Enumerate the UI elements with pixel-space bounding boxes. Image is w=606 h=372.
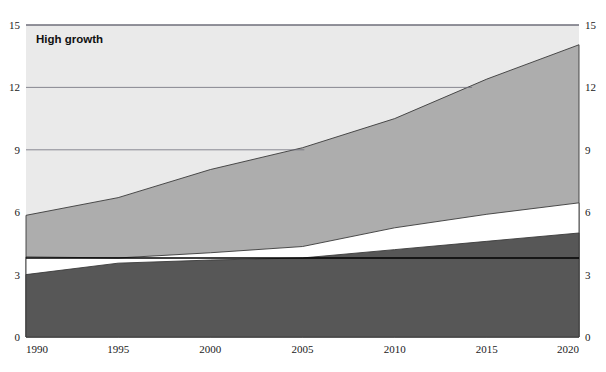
y-tick-right-6: 6 [585, 206, 591, 218]
y-tick-right-15: 15 [585, 19, 597, 31]
x-tick-2000: 2000 [199, 343, 222, 355]
chart-title: High growth [36, 33, 103, 45]
y-tick-right-12: 12 [585, 81, 596, 93]
chart-container: 03691215 03691215 1990199520002005201020… [0, 0, 606, 372]
stacked-area-chart: 03691215 03691215 1990199520002005201020… [0, 0, 606, 372]
y-axis-left-ticks: 03691215 [9, 19, 21, 343]
x-tick-2010: 2010 [384, 343, 407, 355]
y-tick-left-15: 15 [9, 19, 21, 31]
y-tick-right-3: 3 [585, 269, 591, 281]
x-tick-1995: 1995 [107, 343, 130, 355]
x-axis-ticks: 1990199520002005201020152020 [26, 343, 580, 355]
x-tick-1990: 1990 [26, 343, 49, 355]
y-tick-right-9: 9 [585, 144, 591, 156]
y-tick-left-3: 3 [15, 269, 21, 281]
y-tick-left-6: 6 [15, 206, 21, 218]
y-tick-left-0: 0 [15, 331, 21, 343]
y-tick-left-12: 12 [9, 81, 20, 93]
x-tick-2020: 2020 [557, 343, 580, 355]
x-tick-2005: 2005 [292, 343, 315, 355]
y-axis-right-ticks: 03691215 [585, 19, 597, 343]
y-tick-right-0: 0 [585, 331, 591, 343]
y-tick-left-9: 9 [15, 144, 21, 156]
x-tick-2015: 2015 [476, 343, 499, 355]
